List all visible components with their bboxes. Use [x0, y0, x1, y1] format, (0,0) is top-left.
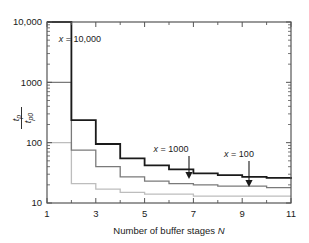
anno-x-1000-label: x = 1000	[153, 144, 189, 154]
y-axis-denominator: tp0	[22, 113, 35, 124]
x-tick-label: 3	[93, 208, 98, 219]
anno-x-10000-label: x = 10,000	[58, 34, 101, 44]
chart-canvas: 135791110100100010,000 x = 10,000x = 100…	[0, 0, 309, 243]
y-tick-label: 10	[31, 197, 42, 208]
y-axis-title: tp tp0	[10, 107, 35, 129]
y-axis-numerator: tp	[10, 115, 23, 122]
y-tick-label: 10,000	[13, 16, 42, 27]
chart-figure: 135791110100100010,000 x = 10,000x = 100…	[0, 0, 309, 243]
x-axis-title: Number of buffer stages N	[113, 225, 224, 236]
x-tick-label: 5	[142, 208, 147, 219]
y-tick-label: 1000	[21, 77, 42, 88]
x-tick-label: 7	[191, 208, 196, 219]
plot-background	[47, 22, 291, 203]
x-tick-label: 9	[240, 208, 245, 219]
anno-x-100-label: x = 100	[223, 149, 254, 159]
x-tick-label: 1	[44, 208, 49, 219]
y-tick-label: 100	[26, 137, 42, 148]
x-tick-label: 11	[286, 208, 296, 219]
